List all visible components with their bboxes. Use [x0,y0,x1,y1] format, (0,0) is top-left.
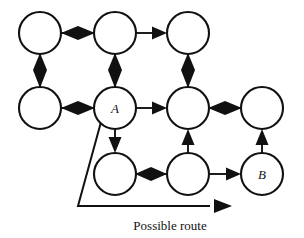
edge-r1c3-r2c3 [181,53,195,88]
node-a[interactable]: A [94,87,136,129]
arrowhead-down-icon [109,137,122,153]
node-b[interactable]: B [241,153,283,195]
edge-layer [33,26,269,181]
node-r2c1[interactable] [19,87,61,129]
double-arrowhead-icon [61,26,95,40]
double-arrowhead-icon [135,167,167,181]
node-circle[interactable] [19,87,61,129]
edge-r3c2-r3c3 [135,167,167,181]
diagram-canvas: Possible route A [0,0,304,238]
edge-r1c1-r1c2 [61,26,95,40]
double-arrowhead-icon [61,101,95,115]
arrowhead-up-icon [182,129,195,145]
edge-r3c4-r2c4 [256,129,269,153]
node-label-a: A [110,101,119,116]
arrowhead-up-icon [256,129,269,145]
node-r1c3[interactable] [167,12,209,54]
edge-r1c1-r2c1 [33,53,47,88]
edge-r3c3-r3c4 [209,168,241,181]
node-label-b: B [258,167,266,182]
node-circle[interactable] [241,87,283,129]
arrowhead-right-icon [152,102,167,115]
arrowhead-right-icon [152,27,167,40]
edge-r2c2-r3c2 [109,129,122,153]
double-arrowhead-icon [208,101,242,115]
node-r1c1[interactable] [19,12,61,54]
node-circle[interactable] [167,153,209,195]
node-circle[interactable] [167,12,209,54]
node-r2c3[interactable] [167,87,209,129]
node-circle[interactable] [94,12,136,54]
node-r1c2[interactable] [94,12,136,54]
node-circle[interactable] [167,87,209,129]
double-arrowhead-icon [181,53,195,88]
edge-r2c2-r2c3 [136,102,167,115]
route-caption: Possible route [133,218,207,233]
node-r2c4[interactable] [241,87,283,129]
edge-r2c3-r2c4 [208,101,242,115]
double-arrowhead-icon [33,53,47,88]
edge-r1c2-r2c2 [108,53,122,88]
network-diagram: Possible route A [0,0,304,238]
edge-r2c1-r2c2 [61,101,95,115]
edge-r1c2-r1c3 [136,27,167,40]
node-r3c3[interactable] [167,153,209,195]
node-circle[interactable] [94,153,136,195]
node-r3c2[interactable] [94,153,136,195]
node-circle[interactable] [19,12,61,54]
edge-r3c3-r2c3 [182,129,195,153]
double-arrowhead-icon [108,53,122,88]
route-arrowhead-icon [214,199,232,213]
arrowhead-right-icon [226,168,241,181]
